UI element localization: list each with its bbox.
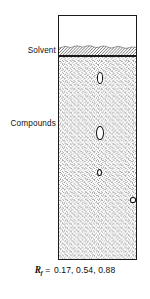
plate-headspace bbox=[59, 16, 136, 45]
tlc-figure: Solvent Compounds bbox=[0, 0, 150, 299]
solvent-label: Solvent bbox=[0, 46, 56, 55]
rf-caption: Rf = 0.17, 0.54, 0.88 bbox=[0, 265, 150, 278]
rf-equals: = bbox=[43, 265, 53, 275]
compound-spot-lower bbox=[97, 169, 102, 176]
compound-spot-middle bbox=[96, 126, 104, 141]
plate-adsorbent-body bbox=[59, 57, 136, 259]
compound-spot-top bbox=[97, 72, 104, 84]
compounds-label: Compounds bbox=[0, 119, 56, 128]
rf-values: 0.17, 0.54, 0.88 bbox=[54, 265, 115, 275]
compound-spot-origin bbox=[130, 197, 137, 203]
solvent-front-band bbox=[59, 43, 136, 56]
